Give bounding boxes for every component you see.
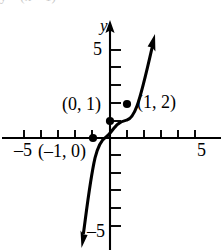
annotation-label-minus1-0: (–1, 0) — [38, 142, 86, 160]
y-tick-label-5: 5 — [93, 40, 102, 58]
y-axis-name-label: y — [100, 17, 108, 34]
point-marker-minus1-0 — [89, 134, 97, 142]
point-marker-1-2 — [123, 100, 131, 108]
y-tick-label-minus5: –5 — [87, 222, 105, 240]
point-marker-0-1 — [106, 117, 114, 125]
x-tick-label-5: 5 — [197, 141, 206, 159]
graph-figure — [0, 0, 221, 250]
x-tick-label-minus5: –5 — [14, 141, 32, 159]
annotation-label-0-1: (0, 1) — [62, 95, 101, 113]
annotation-label-1-2: (1, 2) — [137, 93, 176, 111]
